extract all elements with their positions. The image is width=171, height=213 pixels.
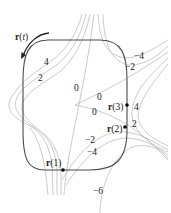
curve-label: r(t) [15,32,28,43]
contour-label: 4 [44,57,49,67]
contour-label: −4 [87,147,97,157]
contour-label: 0 [74,83,79,93]
contour-label: −2 [85,135,95,145]
contour-lines [9,14,168,213]
point-label-r1: r(1) [46,158,61,169]
point-r1 [61,168,65,172]
level-curves-diagram: r(t) r(1) r(2) r(3) 4 2 0 0 0 −4 −2 4 2 … [0,0,171,213]
contour-label: 0 [92,107,97,117]
contour-label: 2 [132,119,137,129]
point-r2 [123,125,127,129]
contour-label: 2 [38,73,43,83]
contour-label: −2 [125,62,135,72]
contour-labels: 4 2 0 0 0 −4 −2 4 2 −2 −4 −6 [38,51,144,196]
contour-label: −6 [93,186,103,196]
contour-label: −4 [134,51,144,61]
point-label-r2: r(2) [107,124,122,135]
point-label-r3: r(3) [108,102,123,113]
contour-label: 0 [97,92,102,102]
contour-label: 4 [134,102,139,112]
point-r3 [125,103,129,107]
